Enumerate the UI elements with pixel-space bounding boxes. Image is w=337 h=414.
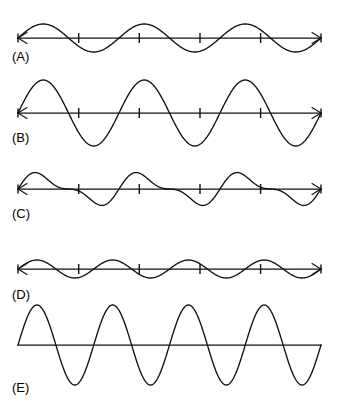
wave-label-d: (D) — [12, 288, 30, 302]
wave-label-c: (C) — [12, 207, 30, 221]
wave-label-b: (B) — [12, 131, 29, 145]
wave-figure: (A)(B)(C)(D)(E) — [0, 0, 337, 414]
wave-panel-B — [18, 80, 321, 146]
wave-panel-D — [18, 260, 321, 278]
wave-panel-A — [18, 24, 321, 52]
wave-label-a: (A) — [12, 50, 29, 64]
wave-panel-E — [18, 305, 321, 385]
wave-diagram-svg — [0, 0, 337, 414]
waveform-curve-C — [18, 173, 321, 206]
wave-panel-C — [18, 173, 321, 206]
wave-label-e: (E) — [12, 381, 29, 395]
